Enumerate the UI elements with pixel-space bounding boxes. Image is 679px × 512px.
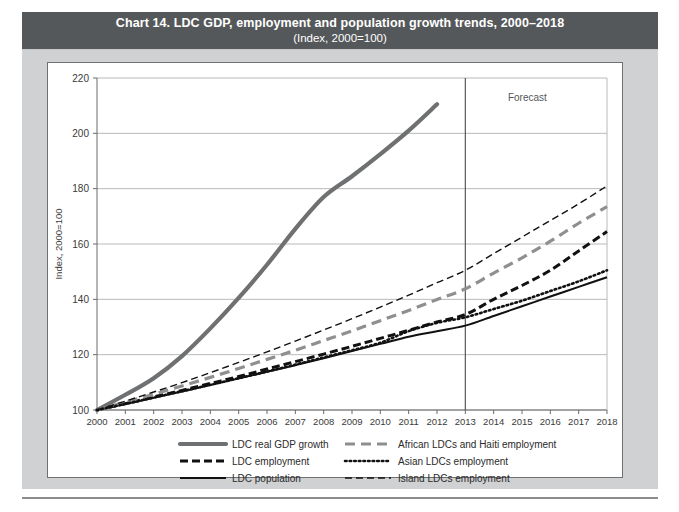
legend-item-ldc-employment[interactable]: LDC employment xyxy=(180,456,309,467)
ytick-label-120: 120 xyxy=(72,349,89,360)
chart-page: Chart 14. LDC GDP, employment and popula… xyxy=(0,0,679,512)
series-line-ldc-real-gdp-growth xyxy=(97,104,437,410)
xtick-label-2011: 2011 xyxy=(398,416,418,427)
xtick-label-2005: 2005 xyxy=(228,416,249,427)
xtick-label-2016: 2016 xyxy=(540,416,561,427)
chart-plot: 1001201401601802002202000200120022003200… xyxy=(0,0,679,512)
series-line-asian-ldcs-employment xyxy=(97,270,607,410)
series-line-ldc-employment xyxy=(97,232,607,410)
xtick-label-2014: 2014 xyxy=(483,416,504,427)
xtick-label-2017: 2017 xyxy=(568,416,589,427)
xtick-label-2009: 2009 xyxy=(341,416,362,427)
y-axis-title: Index, 2000=100 xyxy=(53,208,64,279)
legend-item-island-ldcs-employment[interactable]: Island LDCs employment xyxy=(345,473,510,484)
legend-item-ldc-population[interactable]: LDC population xyxy=(180,473,301,484)
legend-label-right-0: African LDCs and Haiti employment xyxy=(398,439,557,450)
series-line-african-ldcs-and-haiti-employment xyxy=(97,207,607,410)
legend-label-right-2: Island LDCs employment xyxy=(398,473,510,484)
legend-item-ldc-real-gdp-growth[interactable]: LDC real GDP growth xyxy=(180,439,329,450)
ytick-label-100: 100 xyxy=(72,405,89,416)
legend-label-left-2: LDC population xyxy=(232,473,301,484)
xtick-label-2013: 2013 xyxy=(455,416,476,427)
ytick-label-200: 200 xyxy=(72,128,89,139)
ytick-label-140: 140 xyxy=(72,294,89,305)
legend-label-left-1: LDC employment xyxy=(232,456,309,467)
xtick-label-2001: 2001 xyxy=(115,416,136,427)
legend-item-asian-ldcs-employment[interactable]: Asian LDCs employment xyxy=(345,456,508,467)
xtick-label-2006: 2006 xyxy=(256,416,277,427)
ytick-label-180: 180 xyxy=(72,183,89,194)
xtick-label-2002: 2002 xyxy=(143,416,164,427)
xtick-label-2003: 2003 xyxy=(171,416,192,427)
ytick-label-220: 220 xyxy=(72,73,89,84)
footer-rule xyxy=(22,497,658,499)
xtick-label-2018: 2018 xyxy=(596,416,617,427)
xtick-label-2007: 2007 xyxy=(285,416,306,427)
xtick-label-2000: 2000 xyxy=(86,416,107,427)
xtick-label-2012: 2012 xyxy=(426,416,447,427)
xtick-label-2008: 2008 xyxy=(313,416,334,427)
legend-item-african-ldcs-and-haiti-employment[interactable]: African LDCs and Haiti employment xyxy=(345,439,557,450)
legend-label-left-0: LDC real GDP growth xyxy=(232,439,329,450)
ytick-label-160: 160 xyxy=(72,239,89,250)
forecast-label: Forecast xyxy=(508,92,547,103)
xtick-label-2010: 2010 xyxy=(370,416,391,427)
xtick-label-2004: 2004 xyxy=(200,416,221,427)
xtick-label-2015: 2015 xyxy=(511,416,532,427)
legend-label-right-1: Asian LDCs employment xyxy=(398,456,508,467)
